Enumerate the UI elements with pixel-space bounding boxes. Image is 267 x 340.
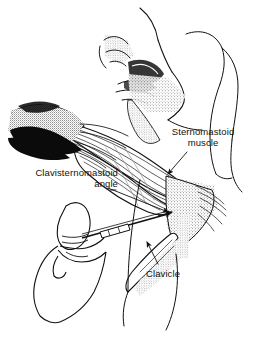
label-clavicle: Clavicle	[146, 268, 206, 279]
label-clavisternomastoid-angle: Clavisternomastoid angle	[6, 167, 118, 189]
label-sternomastoid-muscle: Sternomastoid muscle	[155, 126, 251, 148]
anatomy-figure: Sternomastoid muscle Clavisternomastoid …	[0, 0, 267, 340]
